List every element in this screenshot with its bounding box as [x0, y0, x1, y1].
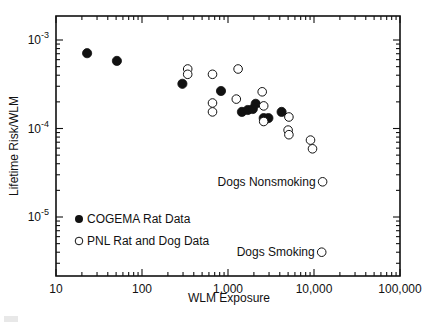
legend-label-pnl: PNL Rat and Dog Data	[87, 234, 210, 248]
filled-circle-marker	[178, 79, 187, 88]
open-circle-marker	[234, 65, 243, 74]
filled-circle-marker	[83, 49, 92, 58]
filled-circle-marker	[251, 99, 260, 108]
open-circle-marker	[259, 102, 268, 111]
y-axis-title: Lifetime Risk/WLM	[7, 96, 21, 196]
open-circle-marker	[208, 108, 217, 117]
legend-filled-circle-icon	[75, 215, 83, 223]
legend-open-circle-icon	[75, 237, 83, 245]
x-tick-label: 10	[49, 282, 63, 296]
filled-circle-marker	[112, 56, 121, 65]
scan-artifact	[4, 316, 18, 322]
open-circle-marker	[317, 248, 326, 257]
x-axis-ticks: 101001,00010,000100,000	[49, 16, 422, 296]
y-tick-label: 10-4	[28, 119, 49, 136]
annotations: Dogs NonsmokingDogs Smoking	[218, 175, 316, 259]
open-circle-marker	[232, 95, 241, 104]
open-circle-marker	[258, 88, 267, 97]
filled-circle-marker	[216, 86, 225, 95]
x-tick-label: 100	[132, 282, 152, 296]
open-circle-marker	[208, 70, 217, 79]
open-circle-marker	[183, 70, 192, 79]
y-axis-ticks: 10-310-410-5	[28, 30, 400, 263]
open-circle-marker	[285, 113, 294, 122]
open-circle-marker	[318, 178, 327, 187]
legend-label-cogema: COGEMA Rat Data	[87, 212, 191, 226]
annotation-label: Dogs Nonsmoking	[218, 175, 316, 189]
annotation-label: Dogs Smoking	[237, 245, 315, 259]
x-tick-label: 10,000	[296, 282, 333, 296]
open-circle-marker	[259, 117, 268, 126]
open-circle-marker	[208, 99, 217, 108]
scatter-chart: 101001,00010,000100,000 10-310-410-5 Dog…	[0, 0, 432, 325]
x-tick-label: 100,000	[378, 282, 422, 296]
open-circle-marker	[306, 136, 315, 145]
x-axis-title: WLM Exposure	[188, 291, 270, 305]
y-tick-label: 10-5	[28, 207, 49, 224]
legend: COGEMA Rat Data PNL Rat and Dog Data	[75, 212, 210, 248]
open-circle-marker	[285, 130, 294, 139]
y-tick-label: 10-3	[28, 30, 49, 47]
open-circle-marker	[308, 145, 317, 154]
